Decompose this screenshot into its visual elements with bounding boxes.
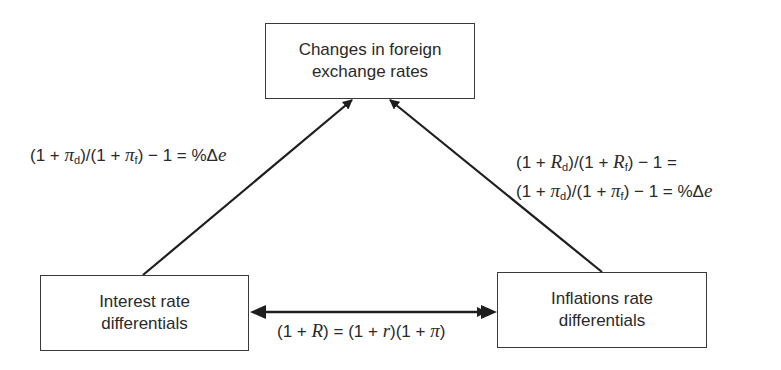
node-label-line2: differentials <box>101 313 188 335</box>
node-label-line2: differentials <box>559 310 646 332</box>
arrowhead-right <box>481 305 497 319</box>
arrowhead-left <box>250 305 266 319</box>
node-label-line1: Interest rate <box>99 291 190 313</box>
node-label-line2: exchange rates <box>312 61 428 83</box>
formula-left-edge: (1 + πd)/(1 + πf) − 1 = %Δe <box>30 143 226 172</box>
formula-fisher-equation: (1 + R) = (1 + r)(1 + π) <box>277 319 445 344</box>
formula-right-line1: (1 + Rd)/(1 + Rf) − 1 = <box>516 150 712 179</box>
node-inflation-rate-differentials: Inflations rate differentials <box>497 272 707 348</box>
formula-right-line2: (1 + πd)/(1 + πf) − 1 = %Δe <box>516 179 712 208</box>
formula-right-edge: (1 + Rd)/(1 + Rf) − 1 = (1 + πd)/(1 + πf… <box>516 150 712 208</box>
node-foreign-exchange-changes: Changes in foreign exchange rates <box>265 23 475 99</box>
node-label-line1: Changes in foreign <box>299 39 442 61</box>
node-interest-rate-differentials: Interest rate differentials <box>40 275 249 351</box>
node-label-line1: Inflations rate <box>551 288 653 310</box>
arrow-interest-to-exchange <box>143 100 352 275</box>
